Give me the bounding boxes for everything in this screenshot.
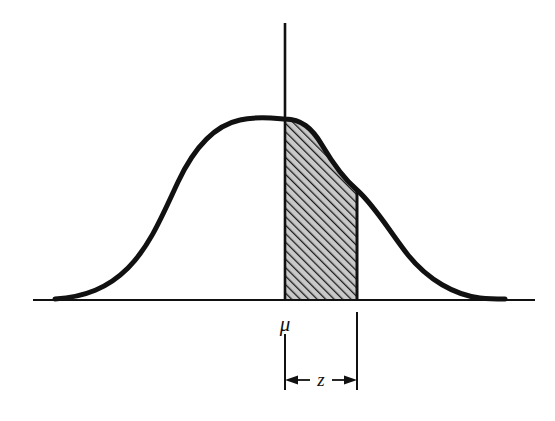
z-label: z (316, 369, 325, 390)
arrowhead-right-icon (344, 376, 357, 385)
normal-distribution-figure: μ z (0, 0, 555, 421)
normal-curve-diagram: μ z (0, 0, 555, 421)
bell-curve-path (55, 118, 505, 299)
mean-label: μ (279, 312, 291, 336)
shaded-area-region (280, 110, 365, 310)
arrowhead-left-icon (285, 376, 298, 385)
